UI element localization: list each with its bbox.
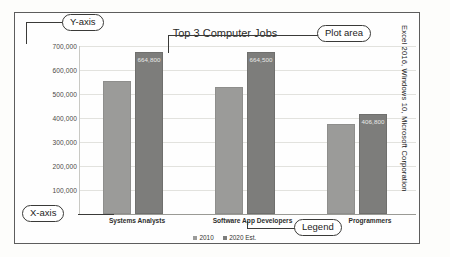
y-axis-tick-label: 500,000 — [25, 91, 77, 98]
plot-area[interactable]: 664,800 664,500 406,800 — [79, 46, 416, 215]
legend-label: 2020 Est. — [229, 234, 256, 241]
bar-2010-software-app-developers[interactable] — [215, 87, 243, 214]
y-axis-tick-label: 400,000 — [25, 115, 77, 122]
legend-item-2010[interactable]: 2010 — [193, 234, 214, 241]
legend-label: 2010 — [200, 234, 214, 241]
bar-2020-programmers[interactable]: 406,800 — [359, 114, 387, 214]
callout-y-axis: Y-axis — [62, 14, 104, 31]
x-axis-category-label: Systems Analysts — [93, 217, 181, 224]
y-axis-tick-label: 300,000 — [25, 139, 77, 146]
legend-swatch-icon — [223, 236, 227, 240]
y-axis-tick-label: 600,000 — [25, 67, 77, 74]
callout-x-axis: X-axis — [22, 205, 64, 222]
callout-plot-area: Plot area — [317, 25, 371, 42]
y-axis-line — [79, 46, 80, 215]
x-axis-category-label: Programmers — [330, 217, 410, 224]
y-axis-tick-label: 200,000 — [25, 163, 77, 170]
gridline — [79, 46, 416, 47]
chart-title: Top 3 Computer Jobs — [125, 27, 325, 39]
y-axis-tick-label: 700,000 — [25, 43, 77, 50]
x-axis-category-label: Software App Developers — [200, 217, 305, 224]
bar-2010-systems-analysts[interactable] — [103, 81, 131, 214]
leader-line-y-axis — [26, 22, 27, 44]
excel-bar-chart[interactable]: Top 3 Computer Jobs 700,000 600,000 500,… — [15, 13, 419, 243]
leader-line-plot-area — [168, 35, 320, 36]
figure-container: Top 3 Computer Jobs 700,000 600,000 500,… — [0, 0, 450, 257]
bar-data-label: 406,800 — [360, 118, 386, 125]
chart-legend[interactable]: 2010 2020 Est. — [193, 234, 256, 241]
legend-swatch-icon — [193, 236, 197, 240]
leader-line-plot-area — [168, 35, 169, 53]
bar-2010-programmers[interactable] — [327, 124, 355, 214]
bar-data-label: 664,500 — [248, 56, 274, 63]
bar-2020-systems-analysts[interactable]: 664,800 — [135, 52, 163, 214]
bar-data-label: 664,800 — [136, 56, 162, 63]
image-credit-text: Excel 2016, Windows 10, Microsoft Corpor… — [397, 25, 409, 215]
leader-line-y-axis — [26, 22, 64, 23]
x-axis-line — [79, 214, 416, 215]
legend-item-2020-est[interactable]: 2020 Est. — [223, 234, 257, 241]
bar-2020-software-app-developers[interactable]: 664,500 — [247, 52, 275, 214]
leader-line-legend — [247, 228, 297, 229]
callout-legend: Legend — [294, 219, 342, 236]
leader-line-legend — [247, 221, 248, 229]
y-axis-tick-label: 100,000 — [25, 187, 77, 194]
leader-line-x-axis — [78, 214, 114, 215]
